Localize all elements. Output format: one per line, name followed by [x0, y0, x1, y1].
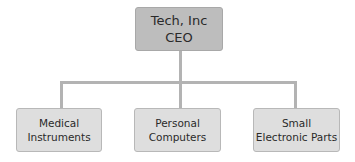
node-label-line2: Instruments: [27, 130, 90, 144]
node-label-line1: Small: [282, 116, 311, 130]
connector-child-3: [294, 81, 297, 108]
connector-child-1: [60, 81, 63, 108]
node-ceo: Tech, Inc CEO: [135, 7, 223, 51]
node-label-line2: Electronic Parts: [256, 130, 337, 144]
node-medical-instruments: Medical Instruments: [16, 108, 102, 152]
node-ceo-company: Tech, Inc: [151, 12, 208, 29]
node-ceo-title: CEO: [165, 29, 193, 46]
node-label-line1: Personal: [155, 116, 200, 130]
node-personal-computers: Personal Computers: [134, 108, 221, 152]
connector-root-down: [179, 51, 182, 84]
connector-child-2: [179, 81, 182, 108]
node-label-line1: Medical: [39, 116, 79, 130]
node-small-electronic-parts: Small Electronic Parts: [253, 108, 340, 152]
node-label-line2: Computers: [149, 130, 207, 144]
